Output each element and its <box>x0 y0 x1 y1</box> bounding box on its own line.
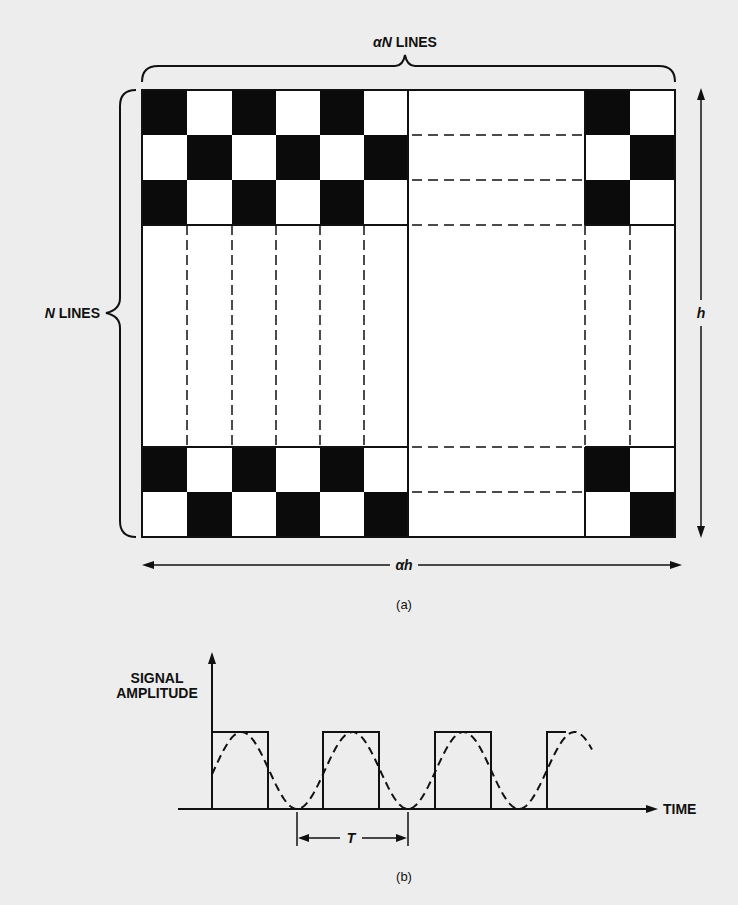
pattern-cell-white <box>276 180 320 225</box>
left-brace <box>106 90 136 537</box>
square-wave <box>212 732 566 809</box>
figure-b: SIGNAL AMPLITUDE TIME T (b) <box>116 652 696 884</box>
pattern-cell-white <box>320 492 364 537</box>
pattern-cell-black <box>187 135 232 180</box>
period-label: T <box>347 830 357 846</box>
left-label: N LINES <box>45 305 100 321</box>
y-axis-arrow-icon <box>208 652 216 664</box>
width-label: αh <box>395 557 412 573</box>
pattern-cell-white <box>187 90 232 135</box>
pattern-cell-black <box>276 492 320 537</box>
x-axis-label: TIME <box>663 801 696 817</box>
pattern-cell-white <box>142 492 187 537</box>
pattern-cell-white <box>364 180 408 225</box>
pattern-cell-black <box>232 90 276 135</box>
y-axis-label-line2: AMPLITUDE <box>116 685 198 701</box>
pattern-cell-white <box>364 447 408 492</box>
pattern-cell-black <box>320 180 364 225</box>
pattern-cell-black <box>142 447 187 492</box>
pattern-cell-white <box>320 135 364 180</box>
pattern-cell-white <box>232 492 276 537</box>
pattern-cell-white <box>276 447 320 492</box>
pattern-cell-white <box>585 492 630 537</box>
x-axis-arrow-icon <box>646 805 658 813</box>
pattern-cell-black <box>630 135 675 180</box>
pattern-cell-black <box>232 447 276 492</box>
pattern-cell-white <box>630 90 675 135</box>
pattern-cell-black <box>276 135 320 180</box>
pattern-cell-black <box>320 447 364 492</box>
pattern-cell-black <box>585 180 630 225</box>
pattern-cell-white <box>232 135 276 180</box>
caption-a: (a) <box>396 597 412 612</box>
pattern-cell-white <box>630 180 675 225</box>
pattern-cell-white <box>585 135 630 180</box>
pattern-cell-black <box>142 180 187 225</box>
height-label: h <box>697 305 706 321</box>
figure-canvas: αN LINES N LINES h <box>0 0 738 905</box>
pattern-cell-white <box>187 447 232 492</box>
pattern-cell-white <box>142 135 187 180</box>
pattern-cell-black <box>142 90 187 135</box>
pattern-cell-white <box>630 447 675 492</box>
pattern-cell-black <box>364 492 408 537</box>
y-axis-label-line1: SIGNAL <box>131 670 184 686</box>
pattern-cell-black <box>364 135 408 180</box>
pattern-cell-black <box>585 447 630 492</box>
figure-a: αN LINES N LINES h <box>45 34 706 612</box>
pattern-cell-black <box>585 90 630 135</box>
top-brace <box>142 55 675 82</box>
pattern-cell-white <box>187 180 232 225</box>
pattern-cell-white <box>276 90 320 135</box>
pattern-cell-black <box>630 492 675 537</box>
pattern-cell-black <box>232 180 276 225</box>
pattern-cell-black <box>320 90 364 135</box>
pattern-cell-white <box>364 90 408 135</box>
pattern-cell-black <box>187 492 232 537</box>
top-label: αN LINES <box>373 34 437 50</box>
caption-b: (b) <box>396 869 412 884</box>
